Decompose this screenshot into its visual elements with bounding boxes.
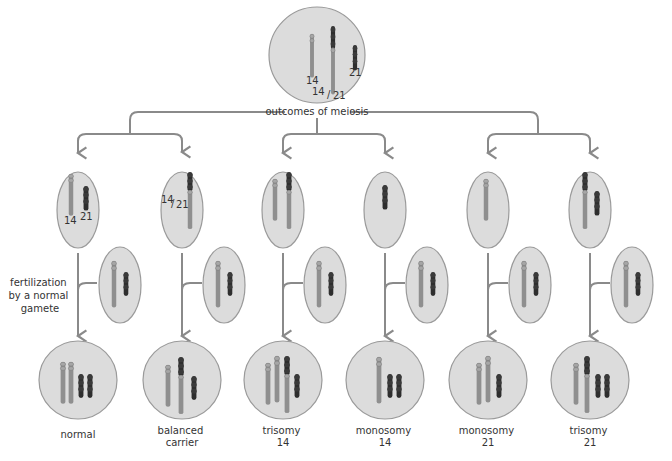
normal-gamete [611, 247, 653, 323]
meiosis-translocation-diagram: 14 14 / 21 21 g[data-name="parent-cell"]… [0, 0, 672, 461]
outcome-label-balanced-carrier: balanced carrier [158, 425, 207, 448]
zygote-monosomy-21 [449, 341, 527, 419]
label-14: 14 [64, 215, 77, 226]
gamete-5 [467, 172, 509, 248]
gamete-2: 14 / 21 [161, 172, 203, 248]
zygote-row [39, 341, 629, 419]
label-21: 21 [80, 211, 93, 222]
outcome-label-monosomy-14: monosomy 14 [356, 425, 415, 448]
normal-gamete [509, 247, 551, 323]
gamete-6 [569, 172, 611, 248]
label-14-21-b: 21 [176, 199, 189, 210]
zygote-monosomy-14 [346, 341, 424, 419]
outcome-label-normal: normal [60, 429, 95, 440]
label-14-21-b: 21 [333, 90, 346, 101]
gamete-1: 14 21 [57, 172, 99, 248]
branch-lines [78, 112, 590, 153]
label-14: 14 [306, 75, 319, 86]
zygote-trisomy-21 [551, 341, 629, 419]
normal-gamete [304, 247, 346, 323]
zygote-trisomy-14 [244, 341, 322, 419]
normal-gamete [203, 247, 245, 323]
zygote-normal [39, 341, 117, 419]
gamete-3 [262, 172, 304, 248]
normal-gamete [406, 247, 448, 323]
outcome-label-trisomy-21: trisomy 21 [570, 425, 611, 448]
label-21: 21 [349, 67, 362, 78]
label-14-21-a: 14 [312, 86, 325, 97]
outcomes-of-meiosis-label: outcomes of meiosis [265, 106, 368, 117]
outcome-labels: normal balanced carrier trisomy 14 monos… [60, 425, 610, 448]
outcome-label-trisomy-14: trisomy 14 [263, 425, 304, 448]
fertilization-label: fertilization by a normal gamete [9, 277, 72, 314]
gamete-row: 14 21 14 / 21 [57, 172, 611, 248]
outcome-label-monosomy-21: monosomy 21 [459, 425, 518, 448]
zygote-balanced-carrier [143, 341, 221, 419]
gamete-4 [364, 172, 406, 248]
normal-gamete [99, 247, 141, 323]
